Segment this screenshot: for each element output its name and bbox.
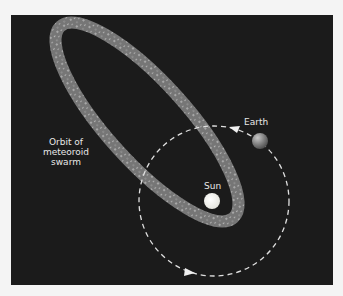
earth-label: Earth [244,117,268,127]
swarm-orbit-label-line3: swarm [36,157,96,167]
earth-icon [252,133,268,149]
meteoroid-swarm-orbit [31,0,263,245]
swarm-orbit-label: Orbit of meteoroid swarm [36,137,96,167]
sun-label: Sun [204,181,221,191]
orbit-direction-arrow-bottom [184,268,195,276]
orbit-direction-arrow-top [229,126,240,133]
sun-icon [204,193,220,209]
swarm-orbit-label-line1: Orbit of [36,137,96,147]
swarm-orbit-label-line2: meteoroid [36,147,96,157]
